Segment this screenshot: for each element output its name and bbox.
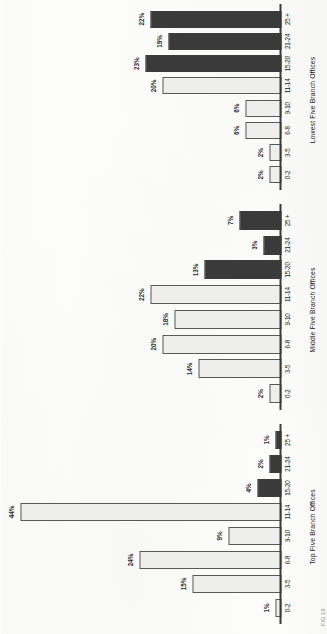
- chart-title-2: Middle Five Branch Offices: [308, 200, 315, 420]
- x-tick-label: 0-2: [283, 164, 295, 186]
- x-axis-line-1: [279, 424, 282, 624]
- bar-value-label: 14%: [185, 363, 192, 376]
- chart-panel-top-five: 1%15%24%9%44%4%2%1% 0-23-56-89-1011-1415…: [0, 420, 327, 634]
- bar-value-label: 6%: [232, 126, 239, 135]
- bar-slot: 9%: [8, 524, 281, 548]
- x-tick-label: 3-5: [283, 572, 295, 596]
- x-tick-label: 15-20: [283, 53, 295, 75]
- bar-value-label: 24%: [126, 554, 133, 567]
- bar: 14%: [198, 359, 281, 378]
- bar-value-label: 22%: [137, 13, 144, 26]
- x-tick-label: 3-5: [283, 357, 295, 382]
- x-tick-label: 11-14: [283, 282, 295, 307]
- bar: 22%: [150, 11, 281, 28]
- figure-caption: FIG 10: [319, 608, 325, 626]
- x-tick-label: 9-10: [283, 97, 295, 119]
- bar: 7%: [239, 211, 281, 230]
- x-tick-label: 6-8: [283, 119, 295, 141]
- bar-value-label: 13%: [191, 264, 198, 277]
- x-axis-line-3: [279, 4, 282, 190]
- x-tick-label: 25 +: [283, 428, 295, 452]
- bar-slot: 20%: [8, 75, 281, 97]
- bar-value-label: 20%: [149, 338, 156, 351]
- bar-slot: 6%: [8, 97, 281, 119]
- bar: 19%: [168, 33, 281, 50]
- bar-value-label: 2%: [256, 459, 263, 468]
- bar-value-label: 18%: [161, 313, 168, 326]
- bar-slot: 2%: [8, 381, 281, 406]
- bar: 20%: [162, 335, 281, 354]
- bar-series-3: 2%2%6%6%20%23%19%22%: [8, 8, 281, 186]
- bar: 22%: [150, 285, 281, 304]
- bar-slot: 1%: [8, 428, 281, 452]
- x-axis-ticks-2: 0-23-56-89-1011-1415-2021-2425 +: [283, 208, 295, 406]
- plot-area-3: 2%2%6%6%20%23%19%22%: [8, 0, 281, 200]
- bar-slot: 3%: [8, 233, 281, 258]
- plot-area-2: 2%14%20%18%22%13%3%7%: [8, 200, 281, 420]
- x-tick-label: 6-8: [283, 548, 295, 572]
- bar-value-label: 3%: [250, 241, 257, 250]
- bar: 6%: [245, 122, 281, 139]
- bar-slot: 2%: [8, 452, 281, 476]
- bar-value-label: 4%: [244, 483, 251, 492]
- x-tick-label: 11-14: [283, 75, 295, 97]
- chart-panel-lowest-five: 2%2%6%6%20%23%19%22% 0-23-56-89-1011-141…: [0, 0, 327, 200]
- bar-value-label: 7%: [226, 216, 233, 225]
- chart-panel-middle-five: 2%14%20%18%22%13%3%7% 0-23-56-89-1011-14…: [0, 200, 327, 420]
- bar-series-2: 2%14%20%18%22%13%3%7%: [8, 208, 281, 406]
- bar-slot: 6%: [8, 119, 281, 141]
- x-tick-label: 3-5: [283, 142, 295, 164]
- bar-slot: 24%: [8, 548, 281, 572]
- bar-value-label: 44%: [7, 506, 14, 519]
- bar: 4%: [257, 479, 281, 497]
- bar-slot: 1%: [8, 596, 281, 620]
- bar-slot: 22%: [8, 8, 281, 30]
- bar: 6%: [245, 100, 281, 117]
- bar: 15%: [192, 575, 281, 593]
- bar-value-label: 6%: [232, 104, 239, 113]
- bar-slot: 2%: [8, 164, 281, 186]
- x-tick-label: 15-20: [283, 476, 295, 500]
- bar-value-label: 1%: [262, 435, 269, 444]
- bar-value-label: 22%: [137, 288, 144, 301]
- x-axis-line-2: [279, 204, 282, 410]
- bar: 24%: [139, 551, 281, 569]
- x-tick-label: 9-10: [283, 524, 295, 548]
- bar-value-label: 9%: [215, 531, 222, 540]
- x-tick-label: 21-24: [283, 452, 295, 476]
- bar-value-label: 23%: [132, 57, 139, 70]
- bar-series-1: 1%15%24%9%44%4%2%1%: [8, 428, 281, 620]
- x-tick-label: 25 +: [283, 8, 295, 30]
- charts-row: 1%15%24%9%44%4%2%1% 0-23-56-89-1011-1415…: [0, 0, 327, 634]
- x-tick-label: 15-20: [283, 258, 295, 283]
- bar-slot: 4%: [8, 476, 281, 500]
- bar-value-label: 2%: [256, 148, 263, 157]
- bar-slot: 22%: [8, 282, 281, 307]
- bar-slot: 2%: [8, 142, 281, 164]
- bar-slot: 14%: [8, 357, 281, 382]
- bar: 18%: [174, 310, 281, 329]
- x-tick-label: 9-10: [283, 307, 295, 332]
- x-tick-label: 25 +: [283, 208, 295, 233]
- bar-slot: 13%: [8, 258, 281, 283]
- x-tick-label: 6-8: [283, 332, 295, 357]
- bar-value-label: 2%: [256, 170, 263, 179]
- x-tick-label: 0-2: [283, 381, 295, 406]
- x-tick-label: 21-24: [283, 30, 295, 52]
- scanned-page: 1%15%24%9%44%4%2%1% 0-23-56-89-1011-1415…: [0, 0, 327, 634]
- bar-value-label: 19%: [155, 35, 162, 48]
- x-tick-label: 0-2: [283, 596, 295, 620]
- x-tick-label: 21-24: [283, 233, 295, 258]
- bar-slot: 19%: [8, 30, 281, 52]
- chart-title-3: Lowest Five Branch Offices: [308, 0, 315, 200]
- bar-slot: 23%: [8, 53, 281, 75]
- bar-slot: 7%: [8, 208, 281, 233]
- bar-slot: 15%: [8, 572, 281, 596]
- bar: 23%: [145, 55, 282, 72]
- bar-slot: 20%: [8, 332, 281, 357]
- x-tick-label: 11-14: [283, 500, 295, 524]
- chart-title-1: Top Five Branch Offices: [308, 420, 315, 634]
- x-axis-ticks-1: 0-23-56-89-1011-1415-2021-2425 +: [283, 428, 295, 620]
- bar-slot: 44%: [8, 500, 281, 524]
- bar-value-label: 20%: [149, 80, 156, 93]
